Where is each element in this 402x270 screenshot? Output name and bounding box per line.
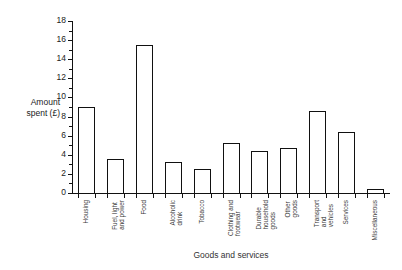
x-axis-category-label-line: Food — [140, 200, 147, 215]
y-axis-tick-label: 10 — [42, 92, 66, 102]
y-axis-tick-label-text: 12 — [44, 73, 66, 82]
x-axis-category-label-line: Clothing and — [227, 200, 234, 236]
y-axis-tick-label: 8 — [42, 112, 66, 122]
x-axis-tick — [136, 193, 137, 198]
x-axis-category-label-line: and power — [118, 200, 125, 230]
x-axis-category-label: Othergoods — [284, 200, 298, 217]
y-axis-tick-label-text: 8 — [44, 112, 66, 121]
x-axis-category-label-line: Services — [342, 200, 349, 225]
bar — [338, 132, 355, 193]
x-axis-tick — [297, 193, 298, 198]
x-axis-tick — [107, 193, 108, 198]
x-axis-category-label: Housing — [82, 200, 89, 223]
x-axis-category-label: Clothing andfootwear — [227, 200, 241, 236]
x-axis-tick — [240, 193, 241, 198]
y-axis-tick-label-text: 10 — [44, 92, 66, 101]
x-axis-tick — [124, 193, 125, 198]
x-axis-tick — [211, 193, 212, 198]
bar — [136, 45, 153, 193]
bars-group — [72, 21, 390, 193]
y-axis-tick-label: 14 — [42, 54, 66, 64]
x-axis-tick — [95, 193, 96, 198]
x-axis-tick — [326, 193, 327, 198]
plot-area: 024681012141618 — [72, 21, 390, 193]
x-axis-tick — [194, 193, 195, 198]
x-axis-category-label-line: goods — [270, 200, 277, 230]
x-axis-tick — [280, 193, 281, 198]
y-axis-tick-label-text: 2 — [44, 169, 66, 178]
x-axis-tick — [165, 193, 166, 198]
x-axis-tick — [78, 193, 79, 198]
y-axis-tick-label: 12 — [42, 73, 66, 83]
x-axis-tick — [384, 193, 385, 198]
x-axis-category-label-line: vehicles — [328, 200, 335, 227]
x-axis-category-label: Services — [342, 200, 349, 225]
x-axis-tick — [309, 193, 310, 198]
x-axis-category-label-line: footwear — [234, 200, 241, 236]
x-axis-tick — [153, 193, 154, 198]
y-axis-tick-label-text: 16 — [44, 35, 66, 44]
y-axis-tick-label-text: 0 — [44, 188, 66, 197]
x-axis-tick — [251, 193, 252, 198]
x-axis-category-labels: HousingFuel, lightand powerFoodAlcoholic… — [72, 200, 390, 248]
y-axis-tick-label-text: 14 — [44, 54, 66, 63]
y-axis-tick-label: 18 — [42, 16, 66, 26]
y-axis-tick-label-text: 6 — [44, 131, 66, 140]
x-axis-tick — [223, 193, 224, 198]
x-axis-ticks — [72, 193, 390, 199]
x-axis-category-label: Alcoholicdrink — [169, 200, 183, 226]
x-axis-tick — [182, 193, 183, 198]
x-axis-category-label: Tobacco — [198, 200, 205, 224]
y-axis-tick-label: 0 — [42, 188, 66, 198]
x-axis-category-label-line: Tobacco — [198, 200, 205, 224]
bar — [78, 107, 95, 193]
x-axis-category-label-line: Fuel, light — [111, 200, 118, 230]
x-axis-category-label: Miscellaneous — [371, 200, 378, 241]
bar — [107, 159, 124, 193]
x-axis-category-label-line: Miscellaneous — [371, 200, 378, 241]
x-axis-title: Goods and services — [72, 250, 390, 260]
bar — [165, 162, 182, 193]
bar-chart: Amount spent (£) 024681012141618 Housing… — [0, 0, 402, 270]
y-axis-tick-label: 6 — [42, 131, 66, 141]
y-axis-tick-label-text: 4 — [44, 150, 66, 159]
x-axis-category-label-line: goods — [292, 200, 299, 217]
x-axis-category-label-line: drink — [176, 200, 183, 226]
y-axis-tick-label: 4 — [42, 150, 66, 160]
x-axis-category-label: Fuel, lightand power — [111, 200, 125, 230]
x-axis-tick — [367, 193, 368, 198]
x-axis-category-label: Transportandvehicles — [313, 200, 335, 227]
y-axis-tick-label: 2 — [42, 169, 66, 179]
x-axis-category-label: Food — [140, 200, 147, 215]
x-axis-tick — [338, 193, 339, 198]
x-axis-tick — [268, 193, 269, 198]
bar — [223, 143, 240, 193]
bar — [309, 111, 326, 193]
x-axis-category-label-line: Alcoholic — [169, 200, 176, 226]
y-axis-tick-label: 16 — [42, 35, 66, 45]
x-axis-tick — [355, 193, 356, 198]
y-axis-tick-label-text: 18 — [44, 16, 66, 25]
x-axis-category-label-line: Housing — [82, 200, 89, 223]
bar — [280, 148, 297, 193]
bar — [194, 169, 211, 193]
x-axis-category-label: Durablehouseholdgoods — [255, 200, 277, 230]
bar — [251, 151, 268, 193]
